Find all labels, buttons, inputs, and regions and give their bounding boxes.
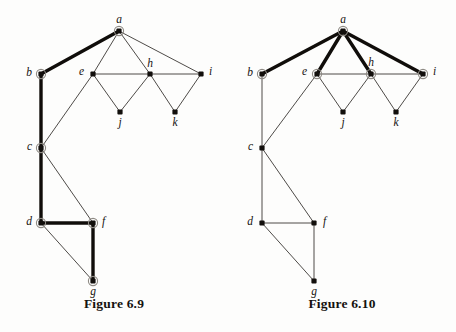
edge-d-g — [41, 223, 93, 281]
node-i[interactable]: i — [198, 65, 212, 77]
node-label-e: e — [302, 65, 307, 77]
node-dot-c — [259, 145, 264, 150]
node-dot-e — [314, 71, 319, 76]
edge-h-k — [150, 74, 175, 112]
node-dot-a — [116, 28, 121, 33]
node-label-k: k — [393, 116, 399, 128]
node-b[interactable]: b — [247, 66, 266, 79]
node-dot-j — [117, 109, 122, 114]
node-k[interactable]: k — [393, 109, 399, 128]
node-dot-b — [259, 71, 264, 76]
node-label-h: h — [368, 56, 374, 68]
node-label-i: i — [433, 65, 436, 77]
node-dot-e — [90, 71, 95, 76]
node-label-c: c — [248, 140, 253, 152]
node-h[interactable]: h — [366, 56, 375, 79]
node-label-k: k — [172, 116, 178, 128]
node-dot-f — [90, 220, 95, 225]
node-dot-i — [420, 71, 425, 76]
edge-a-h — [119, 31, 150, 74]
node-k[interactable]: k — [172, 109, 178, 128]
node-label-j: j — [116, 116, 121, 129]
node-e[interactable]: e — [79, 65, 96, 77]
graph-6-9: abcdefghijk — [0, 0, 228, 300]
node-dot-h — [368, 71, 373, 76]
node-label-d: d — [26, 215, 32, 227]
edge-c-e — [41, 74, 93, 148]
edge-i-k — [175, 74, 201, 112]
node-dot-g — [311, 278, 316, 283]
node-dot-d — [38, 220, 43, 225]
node-label-i: i — [209, 65, 212, 77]
node-label-e: e — [79, 65, 84, 77]
edge-c-f — [41, 148, 93, 223]
figure-6-9-caption: Figure 6.9 — [0, 296, 228, 312]
node-dot-f — [311, 220, 316, 225]
edge-e-j — [317, 74, 343, 112]
node-dot-i — [198, 71, 203, 76]
edge-c-e — [262, 74, 317, 148]
node-label-f: f — [323, 215, 328, 228]
edge-h-j — [343, 74, 371, 112]
node-dot-a — [340, 28, 345, 33]
node-g[interactable]: g — [88, 276, 97, 298]
node-label-j: j — [339, 116, 344, 129]
node-label-h: h — [147, 57, 153, 69]
node-j[interactable]: j — [116, 109, 122, 129]
node-label-a: a — [340, 13, 346, 25]
edge-a-i — [119, 31, 201, 74]
node-dot-k — [393, 109, 398, 114]
node-label-a: a — [116, 13, 122, 25]
figure-page: abcdefghijk Figure 6.9 abcdefghijk Figur… — [0, 0, 456, 332]
node-label-b: b — [26, 66, 32, 78]
edge-h-k — [371, 74, 396, 112]
node-j[interactable]: j — [339, 109, 345, 129]
node-dot-h — [147, 71, 152, 76]
node-dot-g — [90, 278, 95, 283]
node-dot-b — [38, 71, 43, 76]
node-label-d: d — [247, 215, 253, 227]
edge-e-j — [93, 74, 120, 112]
node-dot-c — [38, 145, 43, 150]
node-dot-d — [259, 220, 264, 225]
node-e[interactable]: e — [302, 65, 322, 79]
edge-h-j — [120, 74, 150, 112]
figure-6-10-caption: Figure 6.10 — [228, 296, 456, 312]
edge-d-g — [262, 223, 314, 281]
figure-6-10-panel: abcdefghijk Figure 6.10 — [228, 0, 456, 332]
figure-6-9-panel: abcdefghijk Figure 6.9 — [0, 0, 228, 332]
node-label-b: b — [247, 66, 253, 78]
edge-i-k — [396, 74, 423, 112]
graph-6-10: abcdefghijk — [228, 0, 456, 300]
node-label-f: f — [102, 215, 107, 228]
edge-c-f — [262, 148, 314, 223]
node-label-c: c — [27, 140, 32, 152]
node-f[interactable]: f — [88, 215, 107, 228]
node-dot-k — [172, 109, 177, 114]
node-h[interactable]: h — [147, 57, 153, 77]
node-dot-j — [340, 109, 345, 114]
